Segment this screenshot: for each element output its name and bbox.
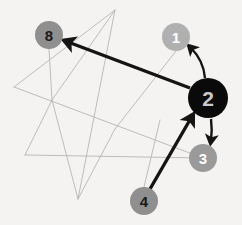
node-3[interactable]: 3 <box>189 144 217 172</box>
node-2[interactable]: 2 <box>188 78 228 118</box>
node-8[interactable]: 8 <box>35 21 63 49</box>
node-4[interactable]: 4 <box>130 187 158 215</box>
node-1[interactable]: 1 <box>162 23 190 51</box>
node-1-circle[interactable] <box>162 23 190 51</box>
node-link-diagram: 81234 <box>0 0 242 225</box>
node-2-circle[interactable] <box>188 78 228 118</box>
node-4-circle[interactable] <box>130 187 158 215</box>
node-3-circle[interactable] <box>189 144 217 172</box>
diagram-canvas: 81234 <box>0 0 242 225</box>
node-8-circle[interactable] <box>35 21 63 49</box>
arrow-2-to-3-arrow[interactable] <box>211 119 212 140</box>
